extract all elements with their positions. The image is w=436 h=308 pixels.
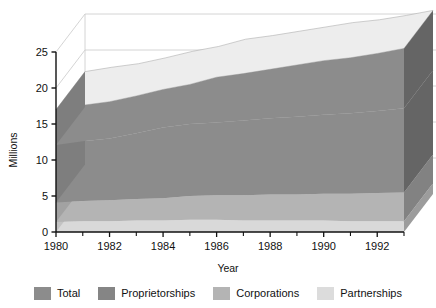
legend-item-proprietorships[interactable]: Proprietorships [98, 287, 195, 300]
chart-container: 05101520251980198219841986198819901992 M… [0, 0, 436, 308]
x-tick-label: 1992 [365, 240, 389, 252]
legend-label-corporations: Corporations [236, 287, 299, 299]
legend-swatch-total [34, 287, 51, 300]
legend-swatch-partnerships [317, 287, 334, 300]
area-chart-plot: 05101520251980198219841986198819901992 M… [0, 0, 436, 278]
chart-legend: Total Proprietorships Corporations Partn… [0, 278, 436, 308]
legend-swatch-proprietorships [98, 287, 115, 300]
x-tick-label: 1980 [44, 240, 68, 252]
x-axis-title: Year [217, 262, 239, 274]
x-tick-label: 1988 [258, 240, 282, 252]
legend-swatch-corporations [213, 287, 230, 300]
x-tick-label: 1984 [151, 240, 175, 252]
y-axis-title: Millions [7, 132, 19, 167]
legend-item-corporations[interactable]: Corporations [213, 287, 299, 300]
legend-item-partnerships[interactable]: Partnerships [317, 287, 402, 300]
legend-label-total: Total [57, 287, 80, 299]
y-tick-label: 5 [42, 190, 48, 202]
y-tick-label: 0 [42, 226, 48, 238]
x-tick-label: 1990 [311, 240, 335, 252]
legend-label-partnerships: Partnerships [340, 287, 402, 299]
y-tick-label: 20 [36, 82, 48, 94]
legend-item-total[interactable]: Total [34, 287, 80, 300]
legend-label-proprietorships: Proprietorships [121, 287, 195, 299]
y-tick-label: 10 [36, 154, 48, 166]
x-tick-label: 1986 [204, 240, 228, 252]
y-tick-label: 15 [36, 118, 48, 130]
x-tick-label: 1982 [97, 240, 121, 252]
y-tick-label: 25 [36, 46, 48, 58]
